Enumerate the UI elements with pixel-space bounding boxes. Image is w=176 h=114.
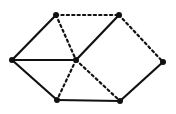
- graph-canvas: [0, 0, 176, 114]
- graph-vertex-right: [160, 59, 166, 65]
- graph-vertex-bottom-right: [117, 98, 123, 104]
- graph-figure: [0, 0, 176, 114]
- graph-vertex-center: [73, 57, 79, 63]
- graph-vertex-top-right: [116, 12, 122, 18]
- graph-vertex-top-left: [53, 12, 59, 18]
- graph-vertex-left: [9, 57, 15, 63]
- figure-background: [0, 0, 176, 114]
- graph-edge-solid: [57, 100, 120, 101]
- graph-vertex-bottom-left: [54, 97, 60, 103]
